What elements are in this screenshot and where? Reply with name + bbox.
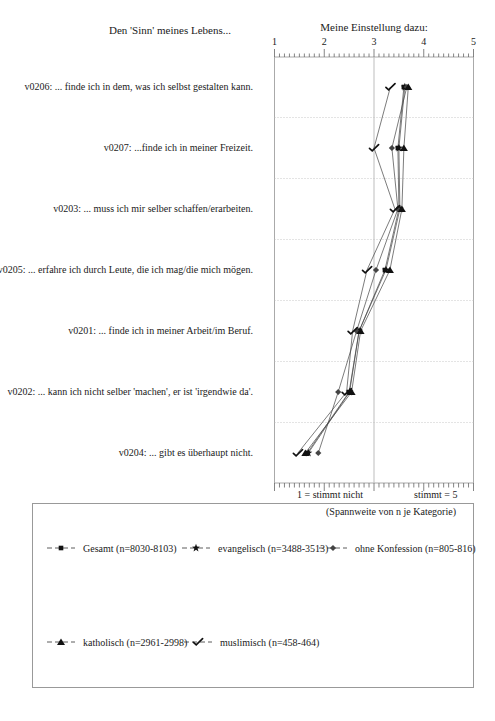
legend-marker-glyph [192,544,200,552]
legend-label-evangelisch: evangelisch (n=3488-3513) [218,543,328,554]
evangelisch-marker-icon [181,542,211,554]
legend: Gesamt (n=8030-8103) evangelisch (n=3488… [32,503,474,688]
legend-item-katholisch: katholisch (n=2961-2998) [46,636,187,648]
marker-4-row0 [386,84,395,90]
legend-marker-glyph [330,545,336,551]
marker-2-row6 [315,450,321,456]
legend-swatch [181,542,211,554]
legend-item-gesamt: Gesamt (n=8030-8103) [46,542,177,554]
legend-label-katholisch: katholisch (n=2961-2998) [83,637,187,648]
legend-item-muslimisch: muslimisch (n=458-464) [183,636,319,648]
legend-swatch [46,636,76,648]
legend-marker-glyph [59,546,64,551]
legend-swatch [318,542,348,554]
katholisch-marker-icon [46,636,76,648]
series-markers-1 [304,83,409,457]
muslimisch-marker-icon [183,636,213,648]
series-markers-3 [301,83,412,456]
series-line-3 [305,87,408,453]
legend-item-ohne-konfession: ohne Konfession (n=805-816) [318,542,476,554]
axis-footer-left: 1 = stimmt nicht [297,489,363,500]
marker-2-row1 [389,145,395,151]
series-line-4 [298,87,395,453]
gesamt-marker-icon [46,542,76,554]
axis-footer-right: stimmt = 5 [414,489,457,500]
plot-area [0,0,495,500]
legend-label-gesamt: Gesamt (n=8030-8103) [83,543,177,554]
marker-2-row5 [335,389,341,395]
legend-label-ohne-konfession: ohne Konfession (n=805-816) [355,543,476,554]
chart-page: Den 'Sinn' meines Lebens... Meine Einste… [0,0,495,721]
legend-swatch [46,542,76,554]
ohne-konfession-marker-icon [318,542,348,554]
legend-swatch [183,636,213,648]
legend-item-evangelisch: evangelisch (n=3488-3513) [181,542,328,554]
legend-label-muslimisch: muslimisch (n=458-464) [220,637,319,648]
